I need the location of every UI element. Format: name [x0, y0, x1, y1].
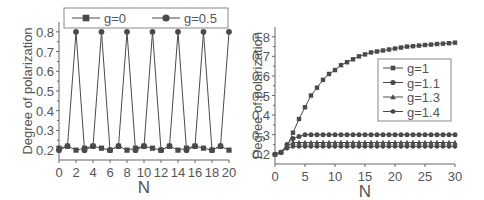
square-marker [357, 54, 361, 58]
circle-marker [226, 29, 232, 35]
circle-marker [375, 132, 380, 137]
y-tick-label: 0.7 [36, 45, 54, 60]
square-marker [303, 105, 307, 109]
circle-marker [435, 132, 440, 137]
square-marker [387, 47, 391, 51]
circle-marker [124, 29, 130, 35]
circle-marker [411, 132, 416, 137]
legend-label: g=1.1 [407, 76, 440, 91]
square-marker [411, 44, 415, 48]
square-marker [417, 43, 421, 47]
square-marker [405, 44, 409, 48]
circle-marker [82, 147, 88, 153]
square-marker [309, 93, 313, 97]
right-chart: 0.20.30.40.50.60.70.8051015202530NDegree… [250, 27, 462, 200]
circle-marker [175, 29, 181, 35]
x-axis-label: N [359, 182, 371, 200]
square-marker [393, 46, 397, 50]
circle-marker [447, 132, 452, 137]
series-g=1.4 [273, 144, 457, 157]
x-tick-label: 18 [205, 165, 219, 180]
circle-marker [393, 132, 398, 137]
circle-marker [405, 132, 410, 137]
square-marker [99, 146, 104, 151]
square-marker [391, 66, 396, 71]
x-tick-label: 14 [171, 165, 185, 180]
circle-marker [357, 132, 362, 137]
x-tick-label: 4 [89, 165, 96, 180]
square-marker [429, 42, 433, 46]
circle-marker [297, 134, 302, 139]
square-marker [83, 15, 90, 22]
circle-marker [399, 132, 404, 137]
circle-marker [327, 132, 332, 137]
circle-marker [99, 29, 105, 35]
square-marker [315, 85, 319, 89]
y-tick-label: 0.8 [36, 25, 54, 40]
series-line [59, 32, 229, 150]
circle-marker [209, 147, 215, 153]
circle-marker [184, 147, 190, 153]
square-marker [423, 43, 427, 47]
circle-marker [390, 80, 395, 85]
circle-marker [303, 132, 308, 137]
x-tick-label: 30 [448, 169, 462, 184]
circle-marker [133, 147, 139, 153]
circle-marker [363, 132, 368, 137]
x-axis-label: N [138, 178, 150, 197]
y-axis-label: Degree of polarization [20, 27, 35, 154]
circle-marker [351, 132, 356, 137]
circle-marker [309, 132, 314, 137]
square-marker [297, 117, 301, 121]
x-tick-label: 20 [388, 169, 402, 184]
x-tick-label: 12 [154, 165, 168, 180]
y-tick-label: 0.4 [36, 104, 54, 119]
square-marker [175, 148, 180, 153]
legend-label: g=1.3 [407, 90, 440, 105]
y-tick-label: 0.6 [36, 64, 54, 79]
square-marker [150, 146, 155, 151]
legend: g=0g=0.5 [64, 8, 228, 28]
circle-marker [162, 14, 169, 21]
y-tick-label: 0.3 [36, 123, 54, 138]
square-marker [226, 148, 231, 153]
square-marker [345, 60, 349, 64]
circle-marker [107, 147, 113, 153]
legend-label: g=1.4 [407, 105, 440, 120]
circle-marker [387, 132, 392, 137]
circle-marker [192, 143, 198, 149]
legend-label: g=0.5 [184, 11, 217, 26]
square-marker [447, 41, 451, 45]
circle-marker [141, 143, 147, 149]
x-tick-label: 0 [271, 169, 278, 184]
circle-marker [65, 143, 71, 149]
square-marker [321, 78, 325, 82]
circle-marker [453, 132, 458, 137]
y-tick-label: 0.2 [36, 143, 54, 158]
x-tick-label: 5 [301, 169, 308, 184]
circle-marker [218, 143, 224, 149]
x-tick-label: 8 [123, 165, 130, 180]
square-marker [369, 50, 373, 54]
square-marker [339, 63, 343, 67]
square-marker [441, 41, 445, 45]
x-tick-label: 0 [55, 165, 62, 180]
x-tick-label: 25 [418, 169, 432, 184]
x-tick-label: 20 [222, 165, 236, 180]
square-marker [333, 68, 337, 72]
square-marker [124, 148, 129, 153]
circle-marker [321, 132, 326, 137]
y-tick-label: 0.5 [36, 84, 54, 99]
left-chart: 0.20.30.40.50.60.70.802468101214161820ND… [20, 8, 236, 197]
figure: 0.20.30.40.50.60.70.802468101214161820ND… [0, 0, 484, 200]
circle-marker [90, 143, 96, 149]
square-marker [453, 40, 457, 44]
circle-marker [201, 29, 207, 35]
circle-marker [73, 29, 79, 35]
legend: g=1g=1.1g=1.3g=1.4 [378, 59, 451, 121]
circle-marker [381, 132, 386, 137]
legend-label: g=1 [407, 61, 429, 76]
circle-marker [333, 132, 338, 137]
circle-marker [150, 29, 156, 35]
circle-marker [158, 147, 164, 153]
